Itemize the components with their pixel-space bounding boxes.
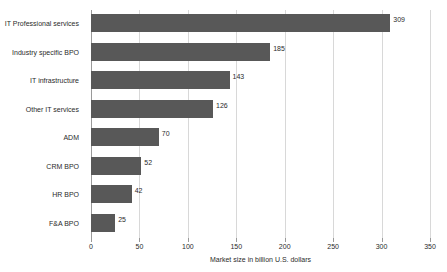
bar[interactable] (91, 128, 159, 146)
tick-mark (382, 238, 383, 242)
tick-mark (139, 238, 140, 242)
bar[interactable] (91, 185, 132, 203)
bar-value-label: 70 (162, 130, 170, 138)
bar-row[interactable]: 143 (91, 67, 430, 96)
bar-value-label: 52 (144, 159, 152, 167)
plot-area: 30918514312670524225 (91, 10, 430, 238)
bar[interactable] (91, 157, 141, 175)
category-label: F&A BPO (0, 220, 85, 228)
x-tick-label: 150 (216, 243, 256, 251)
category-label: Other IT services (0, 106, 85, 114)
bar[interactable] (91, 71, 230, 89)
bar-value-label: 143 (233, 73, 245, 81)
bar-row[interactable]: 185 (91, 39, 430, 68)
bar-value-label: 185 (273, 45, 285, 53)
x-tick-label: 300 (362, 243, 402, 251)
category-label: IT infrastructure (0, 77, 85, 85)
gridline (430, 10, 431, 238)
x-tick-label: 100 (168, 243, 208, 251)
category-label: ADM (0, 134, 85, 142)
bar[interactable] (91, 14, 390, 32)
bar-value-label: 126 (216, 102, 228, 110)
bar-chart: 30918514312670524225 IT Professional ser… (0, 0, 447, 272)
bar-value-label: 42 (135, 187, 143, 195)
x-tick-label: 0 (71, 243, 111, 251)
x-tick-label: 200 (265, 243, 305, 251)
bar[interactable] (91, 100, 213, 118)
bar-row[interactable]: 52 (91, 153, 430, 182)
bar[interactable] (91, 214, 115, 232)
tick-mark (430, 238, 431, 242)
x-axis-title: Market size in billion U.S. dollars (91, 256, 430, 264)
bar-row[interactable]: 309 (91, 10, 430, 39)
x-tick-label: 350 (410, 243, 447, 251)
category-label: IT Professional services (0, 20, 85, 28)
bar[interactable] (91, 43, 270, 61)
tick-mark (236, 238, 237, 242)
category-label: HR BPO (0, 191, 85, 199)
bar-value-label: 309 (393, 16, 405, 24)
category-label: Industry specific BPO (0, 49, 85, 57)
x-tick-label: 50 (119, 243, 159, 251)
tick-mark (91, 238, 92, 242)
bar-row[interactable]: 126 (91, 96, 430, 125)
bar-row[interactable]: 42 (91, 181, 430, 210)
bar-value-label: 25 (118, 216, 126, 224)
category-label: CRM BPO (0, 163, 85, 171)
tick-mark (285, 238, 286, 242)
x-tick-label: 250 (313, 243, 353, 251)
bar-row[interactable]: 25 (91, 210, 430, 239)
tick-mark (333, 238, 334, 242)
tick-mark (188, 238, 189, 242)
bar-row[interactable]: 70 (91, 124, 430, 153)
